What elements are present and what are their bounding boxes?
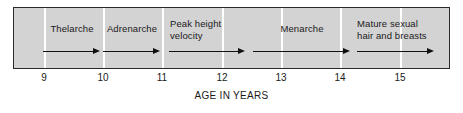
axis-tick-label: 11: [157, 72, 167, 84]
stage-label: Mature sexual hair and breasts: [357, 18, 449, 41]
arrow-head-icon: [427, 48, 434, 54]
axis-tick-label: 9: [41, 72, 47, 84]
timeline-figure: ThelarcheAdrenarchePeak height velocityM…: [0, 0, 463, 113]
stage-arrow: [357, 48, 434, 55]
axis-tick-label: 14: [334, 72, 345, 84]
axis-tick-label: 10: [97, 72, 108, 84]
axis-tick-label: 15: [394, 72, 405, 84]
chart-plot-panel: ThelarcheAdrenarchePeak height velocityM…: [13, 7, 450, 69]
arrow-shaft: [357, 51, 428, 52]
stage-group: Mature sexual hair and breasts: [14, 8, 449, 68]
x-axis-title: AGE IN YEARS: [0, 90, 463, 102]
axis-tick-label: 13: [275, 72, 286, 84]
axis-tick-label: 12: [216, 72, 227, 84]
x-axis-tick-labels: 9101112131415: [0, 72, 463, 86]
